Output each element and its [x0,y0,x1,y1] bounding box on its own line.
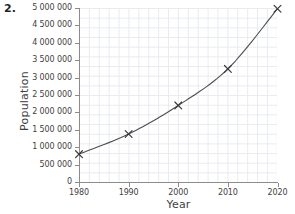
x-axis-tick-label: 1990 [109,189,149,197]
problem-number-label: 2. [4,3,16,15]
y-axis-tick-mark [75,25,79,26]
y-axis-tick-label: 0 [67,178,72,186]
y-axis-tick-mark [75,60,79,61]
x-axis-tick-mark [129,183,130,187]
y-axis-line [79,8,80,183]
x-axis-tick-mark [228,183,229,187]
x-axis-tick-label: 1980 [59,189,99,197]
x-axis-title: Year [79,199,278,211]
y-axis-tick-mark [75,43,79,44]
y-axis-tick-label: 5 000 000 [32,4,72,12]
x-axis-tick-mark [178,183,179,187]
y-axis-title: Population [19,46,31,156]
y-axis-tick-mark [75,147,79,148]
y-axis-tick-label: 2 000 000 [32,108,72,116]
x-axis-tick-label: 2020 [258,189,295,197]
y-axis-tick-label: 3 000 000 [32,74,72,82]
y-axis-tick-label: 4 000 000 [32,39,72,47]
y-axis-tick-label: 1 500 000 [32,126,72,134]
y-axis-tick-mark [75,165,79,166]
plot-area-grid [79,8,277,182]
y-axis-tick-mark [75,112,79,113]
y-axis-tick-mark [75,8,79,9]
y-axis-tick-label: 1 000 000 [32,143,72,151]
y-axis-tick-label: 4 500 000 [32,21,72,29]
x-axis-tick-label: 2010 [208,189,248,197]
y-axis-tick-label: 3 500 000 [32,56,72,64]
x-axis-tick-mark [79,183,80,187]
y-axis-tick-mark [75,78,79,79]
x-axis-tick-mark [278,183,279,187]
y-axis-tick-mark [75,95,79,96]
x-axis-tick-label: 2000 [158,189,198,197]
population-line-chart-figure: 2. 0500 0001 000 0001 500 0002 000 0002 … [0,0,294,214]
y-axis-tick-label: 500 000 [40,161,72,169]
y-axis-tick-mark [75,130,79,131]
y-axis-tick-label: 2 500 000 [32,91,72,99]
